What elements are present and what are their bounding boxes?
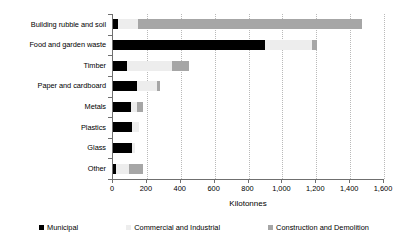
bar-row: [113, 138, 384, 159]
y-axis-tick: [108, 179, 112, 180]
category-label: Paper and cardboard: [0, 76, 110, 97]
legend-swatch-icon: [268, 225, 273, 230]
x-axis-tick: [315, 179, 316, 183]
bar-row: [113, 55, 384, 76]
bar-segment-commercial: [116, 164, 129, 174]
bar-row: [113, 14, 384, 35]
bar-segment-municipal: [113, 122, 132, 132]
bar-row: [113, 158, 384, 179]
legend-label: Construction and Demolition: [276, 224, 369, 231]
bar-row: [113, 76, 384, 97]
x-axis-tick-label: 1,400: [340, 185, 359, 192]
stacked-bar: [113, 61, 189, 71]
x-axis-tick-label: 1,600: [374, 185, 393, 192]
stacked-bar: [113, 122, 139, 132]
stacked-bar: [113, 40, 317, 50]
bar-segment-municipal: [113, 40, 265, 50]
x-axis-tick: [383, 179, 384, 183]
x-axis-tick: [180, 179, 181, 183]
y-axis-tick: [108, 117, 112, 118]
category-label: Plastics: [0, 117, 110, 138]
x-axis-tick-label: 400: [174, 185, 186, 192]
stacked-bar: [113, 143, 135, 153]
bar-segment-commercial: [127, 61, 172, 71]
bar-segment-commercial: [137, 81, 157, 91]
bar-segment-commercial: [265, 40, 312, 50]
legend-item-commercial: Commercial and Industrial: [126, 224, 220, 231]
y-axis-tick: [108, 138, 112, 139]
x-axis-tick-label: 0: [110, 185, 114, 192]
stacked-bar-chart: Building rubble and soil Food and garden…: [0, 0, 399, 241]
bar-row: [113, 35, 384, 56]
bar-segment-municipal: [113, 102, 131, 112]
category-label: Building rubble and soil: [0, 14, 110, 35]
x-axis-tick-label: 600: [207, 185, 219, 192]
bar-segment-commercial: [118, 19, 138, 29]
bar-segment-municipal: [113, 61, 127, 71]
x-axis-tick: [112, 179, 113, 183]
category-label: Food and garden waste: [0, 35, 110, 56]
y-axis-tick: [108, 14, 112, 15]
bar-segment-construction: [129, 164, 143, 174]
x-axis-tick: [146, 179, 147, 183]
bar-series-container: [113, 14, 384, 179]
category-axis: Building rubble and soil Food and garden…: [0, 14, 110, 179]
legend-label: Municipal: [47, 224, 78, 231]
legend-label: Commercial and Industrial: [134, 224, 220, 231]
x-axis-tick-label: 200: [140, 185, 152, 192]
stacked-bar: [113, 164, 143, 174]
bar-segment-commercial: [132, 143, 135, 153]
x-axis-title: Kilotonnes: [112, 200, 384, 208]
category-label: Glass: [0, 138, 110, 159]
x-axis-tick: [248, 179, 249, 183]
x-axis-tick-label: 1,000: [272, 185, 291, 192]
category-label: Metals: [0, 97, 110, 118]
legend-item-municipal: Municipal: [39, 224, 78, 231]
legend-swatch-icon: [126, 225, 131, 230]
stacked-bar: [113, 19, 362, 29]
stacked-bar: [113, 102, 143, 112]
bar-segment-municipal: [113, 143, 132, 153]
y-axis-tick: [108, 55, 112, 56]
gridline: [384, 14, 385, 179]
stacked-bar: [113, 81, 160, 91]
chart-legend: Municipal Commercial and Industrial Cons…: [0, 224, 399, 231]
plot-area: [112, 14, 384, 179]
bar-row: [113, 117, 384, 138]
x-axis-tick-label: 1,200: [306, 185, 325, 192]
y-axis-tick: [108, 97, 112, 98]
bar-segment-construction: [137, 102, 144, 112]
bar-segment-construction: [157, 81, 160, 91]
bar-row: [113, 97, 384, 118]
bar-segment-construction: [172, 61, 189, 71]
legend-item-construction: Construction and Demolition: [268, 224, 369, 231]
y-axis-tick: [108, 76, 112, 77]
x-axis-tick: [349, 179, 350, 183]
x-axis-tick-label: 800: [241, 185, 253, 192]
bar-segment-municipal: [113, 81, 137, 91]
bar-segment-construction: [138, 19, 362, 29]
x-axis-tick: [214, 179, 215, 183]
legend-swatch-icon: [39, 225, 44, 230]
bar-segment-construction: [312, 40, 317, 50]
y-axis-tick: [108, 35, 112, 36]
category-label: Timber: [0, 55, 110, 76]
y-axis-tick: [108, 158, 112, 159]
x-axis-tick: [281, 179, 282, 183]
bar-segment-commercial: [132, 122, 140, 132]
category-label: Other: [0, 158, 110, 179]
